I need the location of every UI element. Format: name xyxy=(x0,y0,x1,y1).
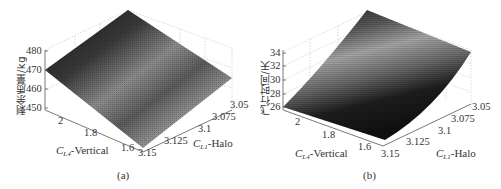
x-tick-b-2: 2 xyxy=(295,117,300,128)
y-tick-a-3.075: 3.075 xyxy=(212,112,236,123)
y-tick-b-3.05: 3.05 xyxy=(472,102,490,113)
z-tick-a-460: 460 xyxy=(26,84,42,95)
y-tick-a-3.1: 3.1 xyxy=(198,124,211,135)
z-tick-a-470: 470 xyxy=(26,65,42,76)
y-axis-label-b: CL1-Halo xyxy=(436,148,476,161)
y-tick-a-3.05: 3.05 xyxy=(230,100,248,111)
x-axis-label-a: CL4-Vertical xyxy=(56,145,109,158)
z-tick-b-32: 32 xyxy=(270,61,281,72)
chart-panel-b: 飞行时间/天 34 32 30 28 26 2 1.8 1.6 3.05 3.0… xyxy=(250,0,501,189)
z-tick-b-28: 28 xyxy=(270,89,281,100)
x-tick-a-2: 2 xyxy=(58,116,63,127)
y-tick-b-3.15: 3.15 xyxy=(381,149,399,160)
x-tick-b-1.8: 1.8 xyxy=(322,130,335,141)
x-tick-a-1.8: 1.8 xyxy=(84,128,97,139)
caption-b: (b) xyxy=(363,170,376,181)
caption-a: (a) xyxy=(117,170,129,181)
z-tick-b-34: 34 xyxy=(270,48,281,59)
x-tick-a-1.6: 1.6 xyxy=(121,143,134,154)
y-tick-a-3.15: 3.15 xyxy=(138,148,156,159)
z-tick-b-30: 30 xyxy=(270,75,281,86)
y-tick-b-3.075: 3.075 xyxy=(451,114,475,125)
y-axis-label-a: CL1-Halo xyxy=(193,138,233,151)
chart-panel-a: 剩余质量/kg 480 470 460 450 2 1.8 1.6 3.05 3… xyxy=(0,0,250,189)
z-tick-a-480: 480 xyxy=(26,46,42,57)
z-tick-a-450: 450 xyxy=(26,103,42,114)
y-tick-b-3.125: 3.125 xyxy=(406,137,430,148)
x-tick-b-1.6: 1.6 xyxy=(358,142,371,153)
z-tick-b-26: 26 xyxy=(270,102,281,113)
x-axis-label-b: CL4-Vertical xyxy=(295,148,348,161)
y-tick-a-3.125: 3.125 xyxy=(164,136,188,147)
surface-plot-a xyxy=(0,0,250,189)
y-tick-b-3.1: 3.1 xyxy=(438,126,451,137)
